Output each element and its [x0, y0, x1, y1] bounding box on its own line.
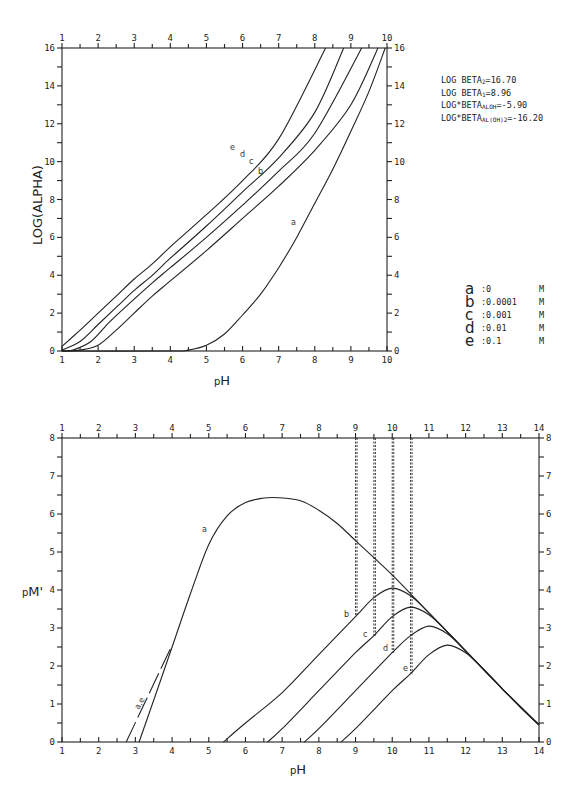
x-tick-label-bottom: 11 — [424, 746, 435, 756]
legend-item-e: e:0.1M — [465, 335, 544, 348]
x-tick-label-top: 5 — [206, 423, 211, 433]
constant-label: LOG*BETA — [441, 113, 482, 123]
x-tick-label-top: 10 — [387, 423, 398, 433]
x-tick-label-top: 2 — [95, 33, 100, 43]
y-tick-label-right: 8 — [394, 195, 399, 205]
x-tick-label-bottom: 2 — [95, 355, 100, 365]
curve-label-a: a — [202, 525, 207, 534]
legend-item-b: b:0.0001M — [465, 296, 544, 309]
constants-block: LOG BETA2=16.70 LOG BETA1=8.96 LOG*BETAA… — [441, 75, 543, 125]
series-curve-a-e-slope-line — [126, 645, 172, 742]
constant-row: LOG BETA2=16.70 — [441, 75, 543, 88]
series-curve-d — [62, 48, 344, 350]
x-tick-label-top: 10 — [382, 33, 393, 43]
bottom-x-axis-title-h: H — [296, 762, 306, 777]
x-tick-label-top: 4 — [168, 33, 173, 43]
x-tick-label-bottom: 5 — [204, 355, 209, 365]
legend-key: e — [465, 335, 481, 348]
x-tick-label-top: 6 — [243, 423, 248, 433]
constant-value: =-16.20 — [507, 113, 543, 123]
x-tick-label-bottom: 4 — [169, 746, 174, 756]
y-tick-label-left: 0 — [50, 346, 55, 356]
curve-label-a-e: a,e — [133, 696, 147, 711]
legend-concentration: :0.1 — [481, 335, 539, 348]
curve-label-e: e — [403, 664, 408, 673]
x-tick-label-top: 14 — [534, 423, 545, 433]
curve-label-d: d — [240, 150, 245, 159]
y-tick-label-right: 6 — [546, 509, 551, 519]
y-tick-label-right: 0 — [546, 737, 551, 747]
legend-unit: M — [539, 283, 544, 296]
series-curve-b — [223, 588, 539, 742]
bottom-chart-curve-labels: abcdea,e — [133, 525, 408, 711]
x-tick-label-bottom: 5 — [206, 746, 211, 756]
x-tick-label-bottom: 7 — [276, 355, 281, 365]
series-curve-e — [341, 645, 539, 742]
legend: a:0M b:0.0001M c:0.001M d:0.01M e:0.1M — [465, 283, 544, 348]
x-tick-label-bottom: 14 — [534, 746, 545, 756]
top-x-axis-title: pH — [214, 373, 230, 388]
y-tick-label-right: 2 — [394, 308, 399, 318]
y-tick-label-left: 14 — [44, 81, 55, 91]
x-tick-label-top: 8 — [312, 33, 317, 43]
top-x-axis-title-h: H — [220, 373, 230, 388]
x-tick-label-bottom: 2 — [96, 746, 101, 756]
x-tick-label-bottom: 3 — [133, 746, 138, 756]
x-tick-label-top: 8 — [316, 423, 321, 433]
x-tick-label-top: 13 — [497, 423, 508, 433]
legend-concentration: :0 — [481, 283, 539, 296]
legend-unit: M — [539, 335, 544, 348]
plot-frame — [62, 438, 539, 742]
y-tick-label-left: 6 — [50, 232, 55, 242]
constant-label: LOG*BETA — [441, 100, 482, 110]
constant-value: =-5.90 — [496, 100, 527, 110]
x-tick-label-top: 11 — [424, 423, 435, 433]
bottom-chart-axes: 1122334455667788991010111112121313141400… — [50, 423, 552, 756]
y-tick-label-right: 6 — [394, 232, 399, 242]
y-tick-label-right: 14 — [394, 81, 405, 91]
constant-row: LOG*BETAAL(OH)2=-16.20 — [441, 113, 543, 126]
x-tick-label-top: 1 — [59, 33, 64, 43]
x-tick-label-bottom: 13 — [497, 746, 508, 756]
curve-label-c: c — [363, 630, 367, 639]
x-tick-label-top: 6 — [240, 33, 245, 43]
x-tick-label-top: 9 — [348, 33, 353, 43]
constant-value: =8.96 — [486, 88, 512, 98]
curve-label-c: c — [249, 157, 253, 166]
x-tick-label-top: 1 — [59, 423, 64, 433]
legend-unit: M — [539, 296, 544, 309]
y-tick-label-right: 10 — [394, 157, 405, 167]
curve-label-b: b — [258, 167, 263, 176]
legend-unit: M — [539, 309, 544, 322]
legend-concentration: :0.01 — [481, 322, 539, 335]
y-tick-label-left: 5 — [50, 547, 55, 557]
series-curve-d — [304, 626, 539, 742]
bottom-x-axis-title: pH — [290, 762, 306, 777]
series-curve-e — [62, 48, 326, 346]
bottom-chart-pm: 1122334455667788991010111112121313141400… — [22, 423, 551, 777]
x-tick-label-bottom: 12 — [460, 746, 471, 756]
y-tick-label-left: 3 — [50, 623, 55, 633]
y-tick-label-right: 12 — [394, 119, 405, 129]
x-tick-label-bottom: 10 — [382, 355, 393, 365]
y-tick-label-left: 0 — [50, 737, 55, 747]
legend-concentration: :0.0001 — [481, 296, 539, 309]
y-tick-label-right: 2 — [546, 661, 551, 671]
constant-label: LOG BETA — [441, 75, 482, 85]
x-tick-label-bottom: 1 — [59, 746, 64, 756]
curve-label-d: d — [383, 644, 388, 653]
x-tick-label-top: 2 — [96, 423, 101, 433]
x-tick-label-bottom: 10 — [387, 746, 398, 756]
top-chart-axes: 1122334455667788991010002244668810101212… — [44, 33, 405, 365]
legend-item-a: a:0M — [465, 283, 544, 296]
constant-row: LOG*BETAALOH=-5.90 — [441, 100, 543, 113]
series-curve-a — [139, 497, 539, 742]
curve-label-b: b — [344, 610, 349, 619]
constant-label: LOG BETA — [441, 88, 482, 98]
x-tick-label-bottom: 1 — [59, 355, 64, 365]
x-tick-label-top: 12 — [460, 423, 471, 433]
x-tick-label-bottom: 3 — [132, 355, 137, 365]
y-tick-label-right: 1 — [546, 699, 551, 709]
y-tick-label-left: 12 — [44, 119, 55, 129]
series-curve-c — [268, 607, 540, 742]
